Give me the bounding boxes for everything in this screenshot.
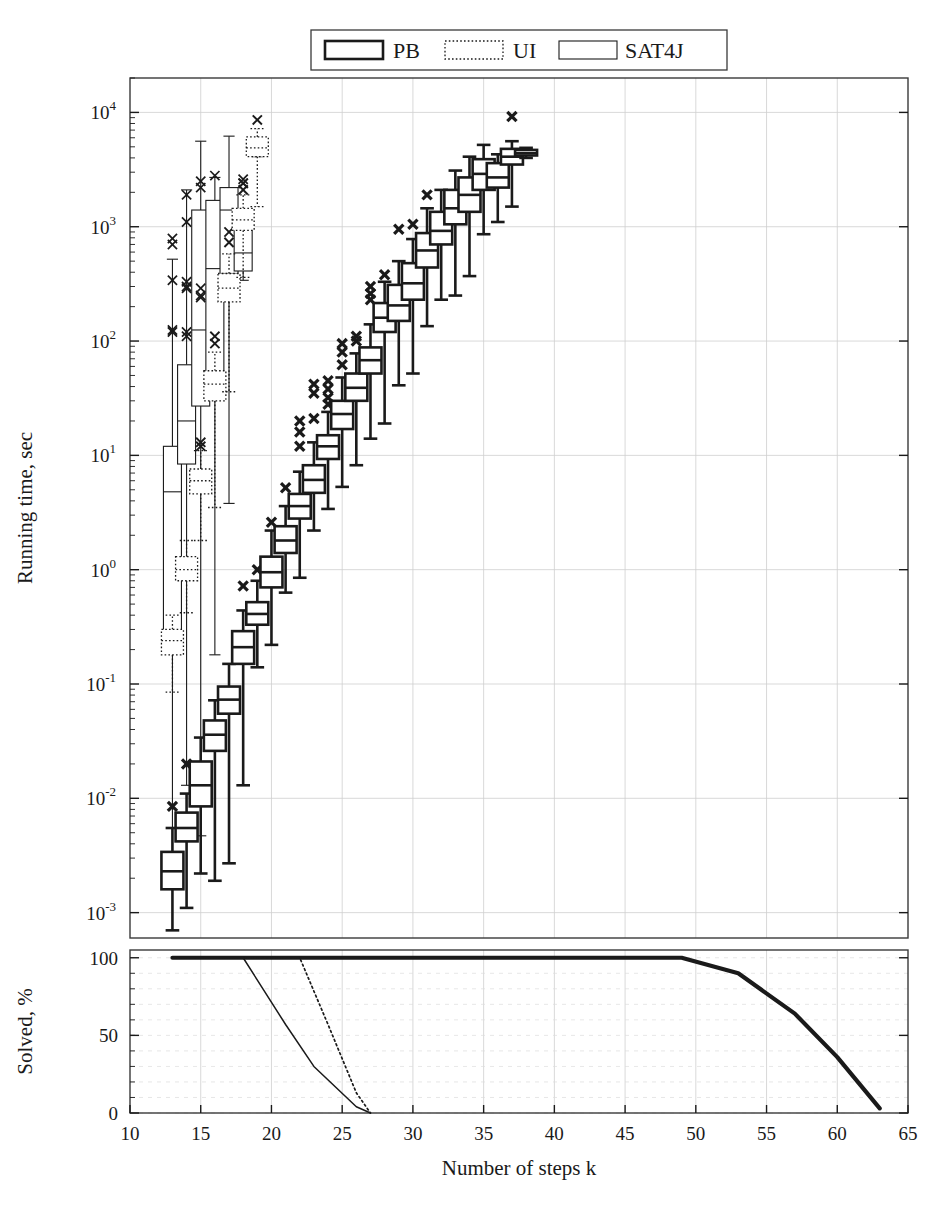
- box-plot-layer: [161, 112, 537, 930]
- x-tick-label: 55: [757, 1123, 776, 1144]
- y-tick-label: 102: [91, 327, 117, 352]
- solved-curve-pb: [172, 958, 879, 1109]
- x-tick-label: 45: [616, 1123, 635, 1144]
- legend-label-sat4j: SAT4J: [625, 38, 684, 63]
- legend-swatch-pb: [325, 41, 383, 59]
- x-tick-label: 15: [191, 1123, 210, 1144]
- bottom-axis-ticks: 050100101520253035404550556065: [90, 948, 918, 1144]
- y-tick-label: 10-2: [86, 784, 116, 809]
- x-tick-label: 50: [686, 1123, 705, 1144]
- legend-label-pb: PB: [393, 38, 420, 63]
- chart-canvas: 10-310-210-11001011021031040501001015202…: [0, 0, 949, 1229]
- box-plot-item: [218, 664, 240, 863]
- box-plot-item: [388, 225, 410, 386]
- solved-tick-label: 100: [90, 948, 119, 969]
- x-axis-label: Number of steps k: [442, 1156, 597, 1180]
- box-plot-item: [515, 148, 537, 158]
- x-tick-label: 40: [545, 1123, 564, 1144]
- y-tick-label: 104: [91, 98, 117, 123]
- x-tick-label: 10: [121, 1123, 140, 1144]
- legend-label-ui: UI: [513, 38, 536, 63]
- y-tick-label: 100: [91, 556, 117, 581]
- box-plot-item: [163, 234, 181, 874]
- x-tick-label: 30: [403, 1123, 422, 1144]
- figure-container: 10-310-210-11001011021031040501001015202…: [0, 0, 949, 1229]
- y-tick-label: 101: [91, 441, 117, 466]
- bottom-panel-ylabel: Solved, %: [13, 988, 37, 1074]
- solved-tick-label: 50: [99, 1025, 118, 1046]
- x-tick-label: 65: [899, 1123, 918, 1144]
- box-plot-item: [246, 115, 268, 206]
- y-tick-label: 10-1: [86, 670, 116, 695]
- x-tick-label: 25: [333, 1123, 352, 1144]
- chart-legend: PBUISAT4J: [311, 30, 727, 70]
- x-tick-label: 20: [262, 1123, 281, 1144]
- box-plot-item: [501, 112, 523, 207]
- solved-tick-label: 0: [109, 1103, 119, 1124]
- legend-swatch-sat4j: [559, 41, 617, 59]
- y-tick-label: 10-3: [86, 899, 116, 924]
- top-panel-ylabel: Running time, sec: [13, 432, 37, 584]
- legend-swatch-ui: [445, 41, 503, 59]
- x-tick-label: 35: [474, 1123, 493, 1144]
- x-tick-label: 60: [828, 1123, 847, 1144]
- box-plot-item: [190, 738, 212, 874]
- y-tick-label: 103: [91, 213, 117, 238]
